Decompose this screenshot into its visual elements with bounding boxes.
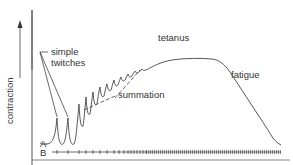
y-axis-label: contraction [4,78,15,124]
label-simple: simple [51,47,78,57]
label-fatigue: fatigue [231,70,260,80]
arrow-up-icon [18,20,23,28]
label-trace-b: B [40,148,46,158]
label-twitches: twitches [51,58,85,68]
y-axis [18,10,33,165]
muscle-contraction-diagram: contraction simple twitches summation te… [0,0,293,165]
label-summation: summation [118,90,164,100]
label-tetanus: tetanus [158,33,189,43]
summation-leader [84,96,115,110]
trace-b-dense-stimuli [146,150,281,154]
